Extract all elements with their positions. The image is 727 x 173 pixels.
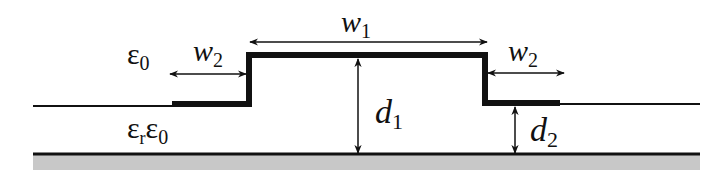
epsr-eps0-label: εrε0 bbox=[127, 111, 168, 148]
microstrip-diagram: ε0 w2 w1 w2 d1 d2 εrε0 bbox=[0, 0, 727, 173]
w1-label: w1 bbox=[341, 5, 371, 42]
stepped-conductor bbox=[172, 55, 560, 104]
ground-plane bbox=[33, 154, 700, 170]
w2-left-label: w2 bbox=[193, 34, 223, 71]
w2-right-label: w2 bbox=[508, 34, 538, 71]
d1-label: d1 bbox=[375, 93, 403, 134]
d2-label: d2 bbox=[530, 111, 558, 152]
eps0-label: ε0 bbox=[127, 37, 150, 74]
